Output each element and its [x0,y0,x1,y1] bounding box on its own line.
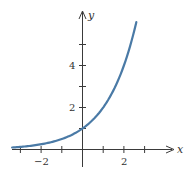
x-tick-label-2: 2 [121,156,127,167]
y-axis-label: y [87,9,95,22]
x-axis-label: x [177,143,184,156]
exponential-curve [12,22,136,147]
y-tick-label-4: 4 [69,60,75,71]
exponential-chart: x y −2 2 2 4 [0,0,194,180]
y-tick-label-2: 2 [69,102,75,113]
x-tick-label-neg2: −2 [34,156,49,167]
